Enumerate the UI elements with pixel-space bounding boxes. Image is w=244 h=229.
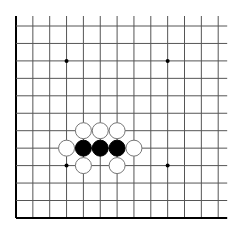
white-stone xyxy=(59,140,75,156)
black-stone xyxy=(75,140,91,156)
black-stone xyxy=(109,140,125,156)
white-stone xyxy=(75,158,91,174)
star-point xyxy=(65,59,69,63)
star-point xyxy=(166,164,170,168)
star-point xyxy=(166,59,170,63)
go-board[interactable] xyxy=(0,0,244,229)
white-stone xyxy=(126,140,142,156)
board-grid xyxy=(16,16,227,218)
white-stone xyxy=(109,123,125,139)
black-stone xyxy=(92,140,108,156)
star-point xyxy=(65,164,69,168)
white-stone xyxy=(92,123,108,139)
white-stone xyxy=(109,158,125,174)
white-stone xyxy=(75,123,91,139)
